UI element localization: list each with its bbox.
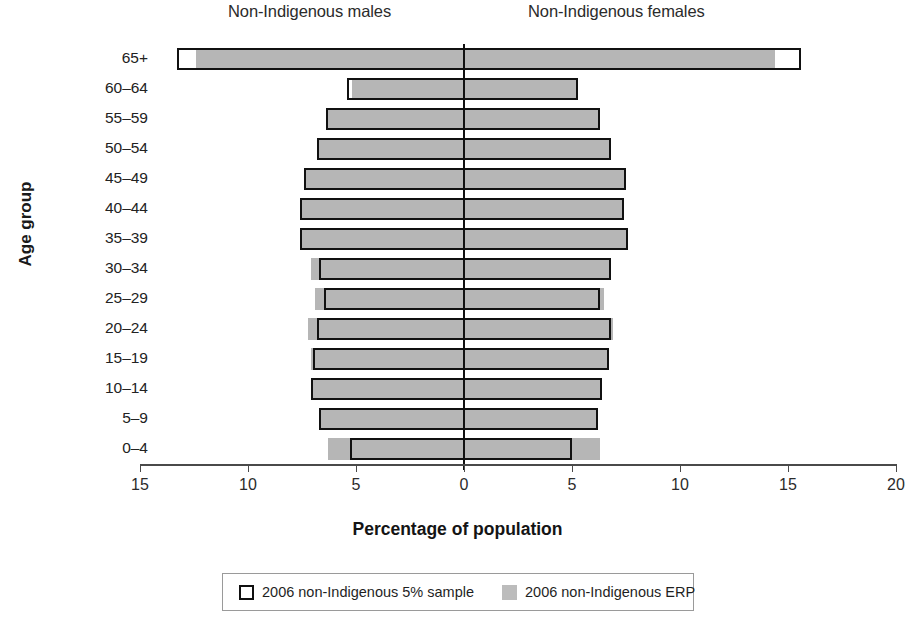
age-group-label: 0–4	[0, 439, 148, 457]
bar-sample-outline	[324, 288, 600, 310]
x-axis-tick	[788, 464, 789, 472]
age-group-label: 10–14	[0, 379, 148, 397]
x-axis-tick	[356, 464, 357, 472]
age-group-row: 10–14	[0, 374, 915, 404]
x-axis-tick	[140, 464, 141, 472]
age-group-label: 30–34	[0, 259, 148, 277]
x-axis-tick	[896, 464, 897, 472]
bar-sample-outline	[313, 348, 609, 370]
x-axis-tick-label: 10	[671, 476, 689, 494]
age-group-row: 55–59	[0, 104, 915, 134]
x-axis-tick	[680, 464, 681, 472]
x-axis-tick	[572, 464, 573, 472]
legend-label-erp: 2006 non-Indigenous ERP	[525, 584, 695, 600]
age-group-label: 55–59	[0, 109, 148, 127]
age-group-label: 5–9	[0, 409, 148, 427]
age-group-row: 45–49	[0, 164, 915, 194]
age-group-label: 35–39	[0, 229, 148, 247]
legend-label-sample: 2006 non-Indigenous 5% sample	[262, 584, 474, 600]
x-axis-tick-label: 10	[239, 476, 257, 494]
age-group-row: 20–24	[0, 314, 915, 344]
age-group-label: 60–64	[0, 79, 148, 97]
bar-sample-outline	[319, 408, 598, 430]
age-group-label: 40–44	[0, 199, 148, 217]
x-axis-tick-label: 5	[568, 476, 577, 494]
age-group-label: 65+	[0, 49, 148, 67]
population-pyramid-chart: Non-Indigenous males Non-Indigenous fema…	[0, 0, 915, 617]
age-group-label: 20–24	[0, 319, 148, 337]
plot-area: 65+60–6455–5950–5445–4940–4435–3930–3425…	[0, 0, 915, 470]
age-group-row: 0–4	[0, 434, 915, 464]
bar-sample-outline	[311, 378, 603, 400]
chart-legend: 2006 non-Indigenous 5% sample 2006 non-I…	[222, 573, 694, 611]
age-group-label: 15–19	[0, 349, 148, 367]
age-group-row: 65+	[0, 44, 915, 74]
age-group-label: 25–29	[0, 289, 148, 307]
bar-sample-outline	[177, 48, 801, 70]
legend-item-erp: 2006 non-Indigenous ERP	[502, 584, 695, 600]
x-axis-tick-label: 15	[131, 476, 149, 494]
legend-swatch-outline-icon	[239, 585, 254, 600]
zero-axis-line	[463, 44, 465, 470]
legend-item-sample: 2006 non-Indigenous 5% sample	[239, 584, 474, 600]
bar-sample-outline	[300, 198, 624, 220]
age-group-row: 15–19	[0, 344, 915, 374]
bar-sample-outline	[350, 438, 572, 460]
age-group-row: 50–54	[0, 134, 915, 164]
age-group-row: 35–39	[0, 224, 915, 254]
x-axis-line	[140, 464, 896, 466]
age-group-row: 30–34	[0, 254, 915, 284]
age-group-row: 5–9	[0, 404, 915, 434]
legend-swatch-fill-icon	[502, 585, 517, 600]
age-group-label: 45–49	[0, 169, 148, 187]
age-group-row: 40–44	[0, 194, 915, 224]
x-axis-title: Percentage of population	[0, 519, 915, 540]
x-axis-tick-label: 20	[887, 476, 905, 494]
x-axis-tick-label: 0	[460, 476, 469, 494]
age-group-row: 60–64	[0, 74, 915, 104]
x-axis-tick	[248, 464, 249, 472]
age-group-row: 25–29	[0, 284, 915, 314]
x-axis-tick-label: 15	[779, 476, 797, 494]
x-axis-tick-label: 5	[352, 476, 361, 494]
x-axis-tick	[464, 464, 465, 472]
age-group-label: 50–54	[0, 139, 148, 157]
